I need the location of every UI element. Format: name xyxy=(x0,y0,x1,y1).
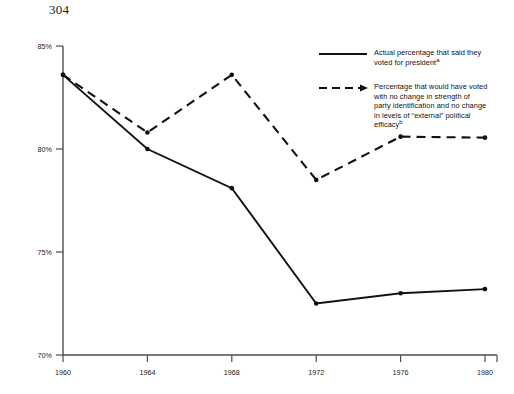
y-tick-label-80%: 80% xyxy=(24,145,52,154)
x-tick-label-1976: 1976 xyxy=(381,368,421,377)
legend-label-actual: Actual percentage that said they voted f… xyxy=(374,48,481,67)
legend-entry-actual: Actual percentage that said they voted f… xyxy=(318,48,481,67)
data-point-1968 xyxy=(230,73,235,78)
data-point-1980 xyxy=(483,287,488,292)
legend-actual-line1: Actual percentage that said they xyxy=(374,48,481,57)
legend-cf-line3: party identification and no change xyxy=(374,101,486,110)
y-tick-label-70%: 70% xyxy=(24,351,52,360)
legend-cf-line2: with no change in strength of xyxy=(374,92,470,101)
data-point-1980 xyxy=(483,135,488,140)
data-point-1972 xyxy=(314,301,319,306)
y-axis-ticks xyxy=(56,46,63,355)
data-point-1972 xyxy=(314,178,319,183)
y-tick-label-85%: 85% xyxy=(24,42,52,51)
x-tick-label-1968: 1968 xyxy=(212,368,252,377)
y-tick-label-75%: 75% xyxy=(24,248,52,257)
data-point-1964 xyxy=(145,130,150,135)
x-axis-ticks xyxy=(63,355,497,362)
x-tick-label-1964: 1964 xyxy=(127,368,167,377)
data-point-1976 xyxy=(398,291,403,296)
data-point-1960 xyxy=(61,73,66,78)
legend-cf-line1: Percentage that would have voted xyxy=(374,82,487,91)
data-point-1964 xyxy=(145,147,150,152)
line-chart-figure: 85%80%75%70% 196019641968197219761980 Ac… xyxy=(0,0,514,394)
legend-cf-footnote: b xyxy=(399,119,402,125)
legend-dashed-line-icon xyxy=(318,82,368,94)
legend-actual-footnote: a xyxy=(436,56,439,62)
x-tick-label-1972: 1972 xyxy=(296,368,336,377)
data-point-1976 xyxy=(398,134,403,139)
x-tick-label-1980: 1980 xyxy=(465,368,505,377)
legend-cf-line4: in levels of “external” political xyxy=(374,111,471,120)
legend-label-counterfactual: Percentage that would have voted with no… xyxy=(374,82,487,130)
legend-entry-counterfactual: Percentage that would have voted with no… xyxy=(318,82,487,130)
legend-cf-line5: efficacy xyxy=(374,120,399,129)
data-point-1968 xyxy=(230,186,235,191)
legend-solid-line-icon xyxy=(318,48,368,60)
legend-actual-line2: voted for president xyxy=(374,58,436,67)
x-tick-label-1960: 1960 xyxy=(43,368,83,377)
